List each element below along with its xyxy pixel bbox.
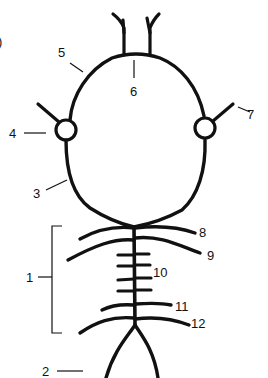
- body-axis: [134, 227, 135, 325]
- antennae: [113, 14, 159, 55]
- leader-lines: [24, 60, 250, 371]
- label-1: 1: [26, 270, 33, 285]
- label-4: 4: [9, 126, 16, 141]
- bracket-1: [52, 226, 62, 333]
- anatomy-diagram: ): [0, 0, 268, 378]
- label-11: 11: [175, 299, 189, 314]
- right-appendages: [135, 227, 200, 325]
- label-12: 12: [191, 316, 205, 331]
- label-9: 9: [207, 248, 214, 263]
- left-appendages: [68, 227, 134, 333]
- label-5: 5: [58, 45, 65, 60]
- label-7: 7: [247, 107, 254, 122]
- label-8: 8: [199, 225, 206, 240]
- panel-label-fragment: ): [0, 34, 2, 49]
- head-outline: [66, 54, 205, 227]
- label-10: 10: [153, 265, 167, 280]
- tail: [106, 325, 158, 378]
- label-2: 2: [42, 364, 49, 378]
- label-6: 6: [130, 84, 137, 99]
- label-3: 3: [33, 186, 40, 201]
